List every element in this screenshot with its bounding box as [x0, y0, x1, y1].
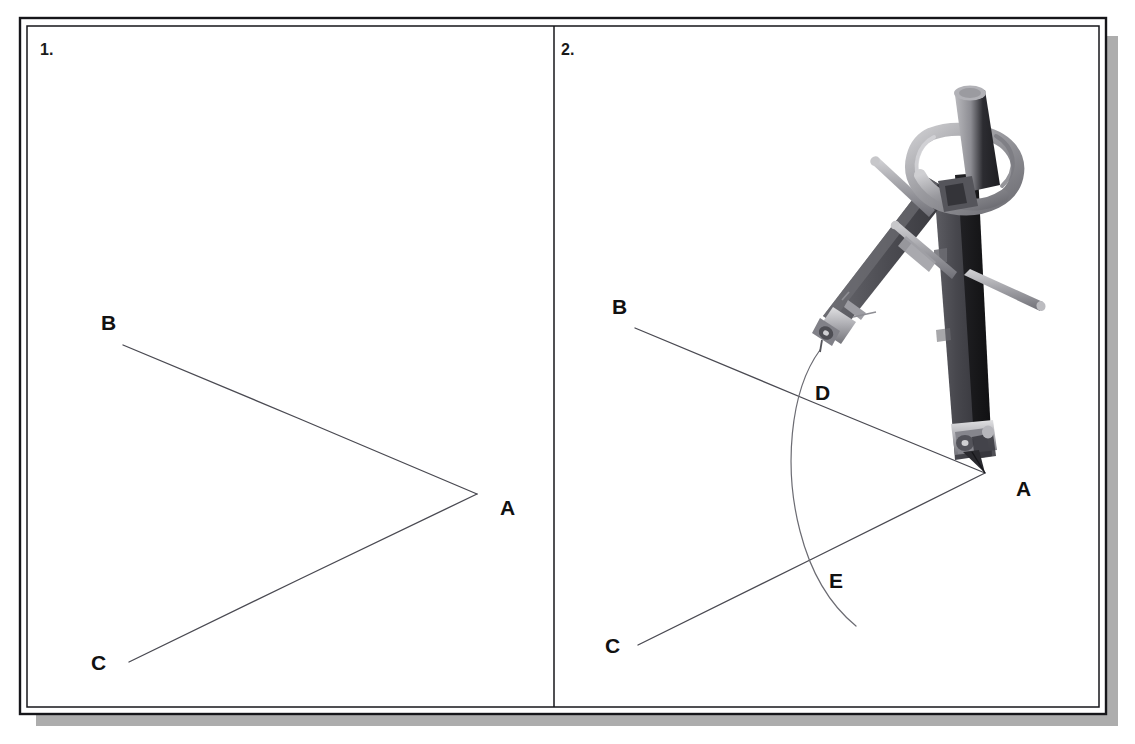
compass-right-leg-notch-2	[936, 328, 951, 342]
panel-2-label-d: D	[815, 381, 830, 404]
geometry-figure-root: 1. B A C 2. B D A E C	[0, 0, 1135, 744]
figure-frame	[20, 18, 1106, 714]
panel-2-label-c: C	[605, 634, 620, 657]
panel-2-number: 2.	[561, 41, 574, 58]
panel-1-number: 1.	[40, 41, 53, 58]
panel-2-label-a: A	[1016, 477, 1031, 500]
panel-2-label-b: B	[612, 295, 627, 318]
panel-1-label-a: A	[500, 496, 515, 519]
panel-2-label-e: E	[829, 569, 843, 592]
panel-1-label-b: B	[101, 311, 116, 334]
figure-canvas: 1. B A C 2. B D A E C	[0, 0, 1135, 744]
panel-1-label-c: C	[91, 651, 106, 674]
